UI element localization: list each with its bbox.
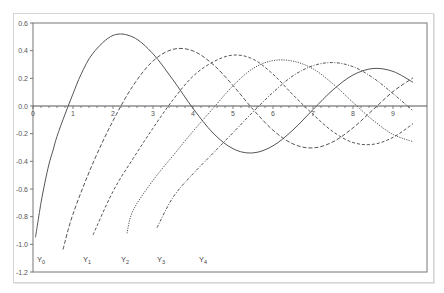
x-tick-label: 9: [391, 110, 395, 117]
x-tick-label: 2: [111, 110, 115, 117]
x-tick-label: 5: [231, 110, 235, 117]
y-tick-label: 0.2: [18, 75, 28, 82]
x-tick-label: 8: [351, 110, 355, 117]
y-tick-label: -1.2: [16, 269, 28, 276]
y-tick-label: 0.0: [18, 103, 28, 110]
x-tick-label: 1: [71, 110, 75, 117]
x-tick-label: 0: [31, 110, 35, 117]
x-tick-label: 6: [271, 110, 275, 117]
y-tick-label: -1.0: [16, 241, 28, 248]
y-axis: 0.60.40.20.0-0.2-0.4-0.6-0.8-1.0-1.2: [16, 20, 33, 276]
y-tick-label: -0.6: [16, 186, 28, 193]
y-tick-label: -0.2: [16, 130, 28, 137]
y-tick-label: 0.4: [18, 47, 28, 54]
y-tick-label: 0.6: [18, 20, 28, 27]
y-tick-label: -0.8: [16, 213, 28, 220]
y-tick-label: -0.4: [16, 158, 28, 165]
x-tick-label: 3: [151, 110, 155, 117]
bessel-functions-chart: 0.60.40.20.0-0.2-0.4-0.6-0.8-1.0-1.2 012…: [0, 0, 444, 293]
